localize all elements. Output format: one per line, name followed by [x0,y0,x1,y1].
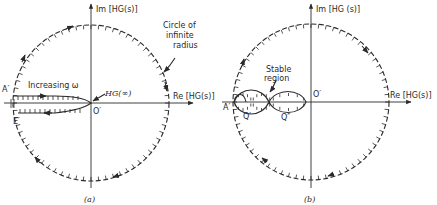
hatch-mark [239,72,243,74]
hatch-mark [262,42,265,45]
hatch-mark [113,28,114,32]
hatch-mark [159,131,163,133]
hatch-mark [368,53,371,56]
point-q-label: Q′ [243,112,251,121]
hatch-mark [68,28,69,32]
re-axis-label-b: Re [HG(s)] [390,91,432,100]
hatch-mark [119,171,121,175]
hatch-mark [156,138,160,140]
hatch-mark [54,168,56,172]
hatch-mark [16,80,20,81]
hatch-mark [274,33,276,37]
circle-arrow-a4 [35,157,40,163]
hatch-mark [156,66,160,68]
hatch-mark [42,160,45,163]
hatch-mark [236,124,240,125]
circle-note-line3: radius [173,41,198,50]
hatch-mark [251,149,254,152]
hatch-mark [138,43,141,46]
hatch-mark [333,27,334,31]
hatch-mark [153,144,156,146]
caption-a: (a) [84,195,95,204]
hatch-mark [36,48,39,51]
hatch-mark [236,79,240,80]
hatch-mark [126,168,128,172]
hatch-mark [384,116,388,117]
hatch-mark [384,87,388,88]
hatch-mark [358,159,361,162]
hatch-mark [373,143,376,145]
hatch-mark [239,130,243,132]
hatch-mark [31,150,34,153]
hatch-mark [376,137,380,139]
stable-note-line1: Stable [266,65,291,74]
hatch-mark [148,150,151,153]
point-a-label-b: A′ [223,103,230,112]
hatch-mark [162,80,166,81]
increasing-omega-label: Increasing ω [28,81,79,90]
hatch-mark [288,27,289,31]
hatch-mark [42,43,45,46]
hg-inf-pointer [93,94,105,101]
hatch-mark [22,66,26,68]
hatch-mark [325,175,326,179]
hatch-mark [256,154,259,157]
hatch-mark [373,59,376,61]
hatch-mark [339,30,341,34]
hatch-mark [379,130,383,132]
panel-b: Im [HG (s)] Re [HG(s)] O′ A′ Q′ Q″ Stabl… [222,4,432,204]
im-axis-label-b: Im [HG (s)] [316,5,360,14]
hatch-mark [31,54,34,57]
hatch-mark [26,144,29,146]
hatch-mark [148,54,151,57]
re-axis-label-a: Re [HG(s)] [173,92,215,101]
hatch-mark [358,42,361,45]
hatch-mark [346,33,348,37]
hatch-mark [159,73,163,75]
hatch-mark [288,173,289,177]
hatch-mark [382,79,386,80]
hatch-mark [339,170,341,174]
hatch-mark [132,38,134,41]
hatch-mark [19,131,23,133]
circle-note-line2: infinite [166,31,194,40]
hatch-mark [143,155,146,158]
hatch-mark [126,34,128,38]
hatch-mark [251,53,254,56]
hatch-mark [119,31,121,35]
hatch-mark [76,27,77,31]
hatch-mark [132,165,134,168]
hatch-mark [138,160,141,163]
hatch-mark [242,137,246,139]
hatch-mark [274,167,276,171]
hatch-mark [363,154,366,157]
circle-note-line1: Circle of [163,21,196,30]
hatch-mark [61,31,63,35]
caption-b: (b) [304,195,315,204]
hatch-mark [368,149,371,152]
hatch-mark [268,37,270,40]
stable-note-line2: region [264,74,289,83]
hatch-mark [19,73,23,75]
hatch-mark [246,59,249,61]
im-axis-label-a: Im [HG(s)] [96,5,138,14]
nyquist-diagram: Im [HG(s)] Re [HG(s)] O′ A′ E′ HG(∞) Inc… [0,0,437,205]
hatch-mark [281,170,283,174]
hatch-mark [26,60,29,62]
circle-arrow-a5 [22,55,25,62]
hatch-mark [22,138,26,140]
hatch-mark [296,26,297,30]
hatch-mark [256,47,259,50]
point-e-label: E′ [13,117,20,126]
hatch-mark [76,176,77,180]
hatch-mark [379,72,383,74]
hatch-mark [164,117,168,118]
hatch-mark [235,87,239,88]
hatch-mark [162,125,166,126]
circle-note-pointer [164,58,175,72]
hatch-mark [153,60,156,62]
hatch-mark [105,176,106,180]
hatch-mark [242,65,246,67]
hatch-mark [15,88,19,89]
hatch-mark [105,27,106,31]
